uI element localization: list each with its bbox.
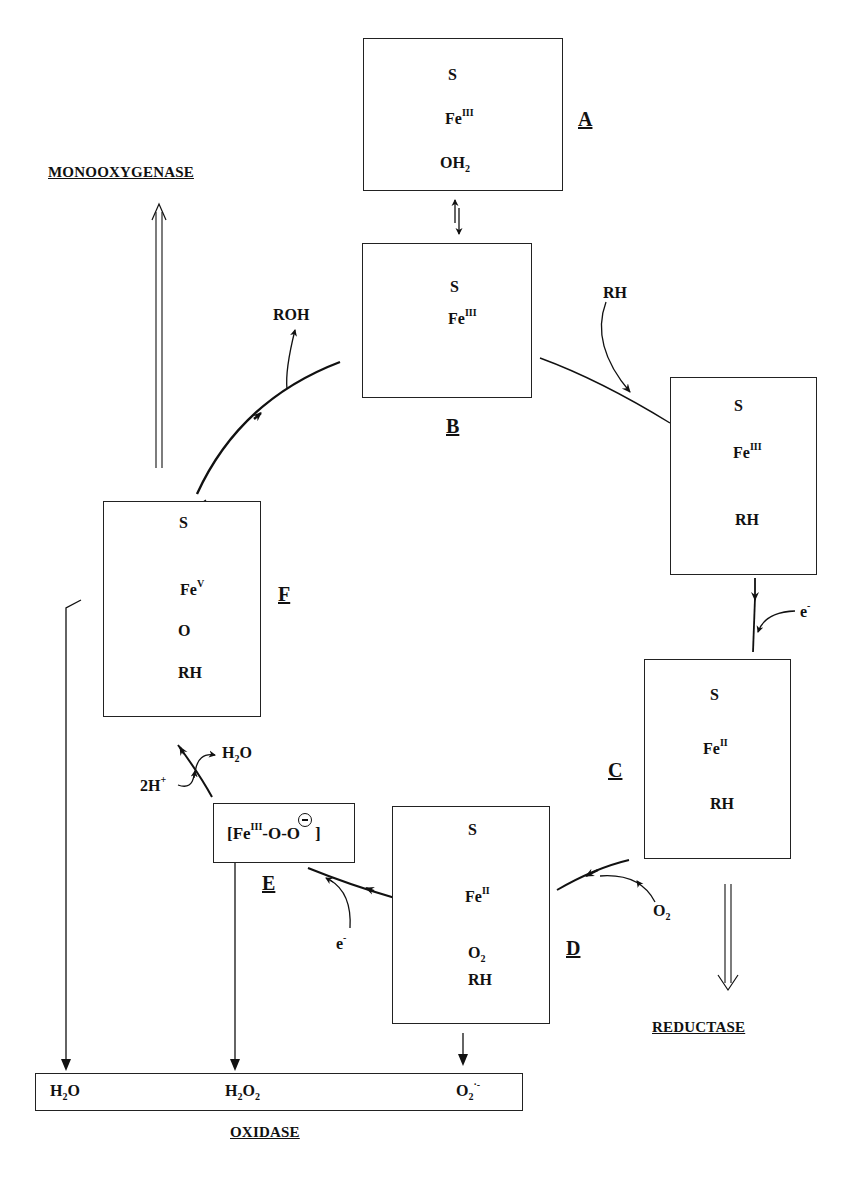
state-b-iron: FeIII (448, 311, 477, 327)
product-roh-label: ROH (273, 307, 309, 323)
state-b2-substrate: RH (735, 512, 759, 528)
formula-prefix: [Fe (227, 824, 251, 843)
product-sub: 2 (468, 1091, 473, 1102)
electron-label-2: e- (336, 936, 346, 952)
ligand-subscript: 2 (465, 163, 470, 174)
ligand-subscript: 2 (480, 953, 485, 964)
formula-suffix: -O-O (262, 824, 300, 843)
state-b-label: B (446, 416, 459, 436)
oxidation-state: III (750, 441, 762, 452)
ligand-symbol: OH (440, 154, 465, 171)
electron-charge: - (343, 932, 346, 943)
product-main: H (225, 1082, 237, 1099)
oxidase-product-peroxide: H2O2 (225, 1083, 260, 1099)
state-f-sulfur: S (179, 515, 188, 531)
monooxygenase-label: MONOOXYGENASE (48, 165, 194, 180)
substrate-rh-label: RH (603, 285, 627, 301)
state-d-box (392, 806, 550, 1024)
oxidation-state: III (462, 107, 474, 118)
state-f-oxo: O (178, 623, 190, 639)
state-b2-sulfur: S (734, 398, 743, 414)
state-c-sulfur: S (710, 687, 719, 703)
product-tail: O (242, 1082, 254, 1099)
oxidation-state: V (197, 578, 204, 589)
reductase-label: REDUCTASE (652, 1020, 745, 1035)
iron-symbol: Fe (703, 740, 720, 757)
state-d-iron: FeII (465, 889, 490, 905)
oxygen-symbol: O (653, 902, 665, 919)
iron-symbol: Fe (180, 581, 197, 598)
water-out-label: H2O (222, 745, 252, 761)
oxygen-o2-label: O2 (653, 903, 670, 919)
state-b2-iron: FeIII (733, 445, 762, 461)
state-d-substrate: RH (468, 972, 492, 988)
state-c-substrate: RH (710, 796, 734, 812)
oxidation-state: II (720, 737, 728, 748)
proton-charge: + (160, 774, 166, 785)
state-a-water: OH2 (440, 155, 470, 171)
state-c-iron: FeII (703, 741, 728, 757)
water-h: H (222, 744, 234, 761)
water-o: O (239, 744, 251, 761)
iron-symbol: Fe (733, 444, 750, 461)
state-a-iron: FeIII (445, 111, 474, 127)
state-d-sulfur: S (468, 822, 477, 838)
state-c-label: C (608, 760, 622, 780)
product-main: H (50, 1082, 62, 1099)
oxidation-state: III (251, 821, 263, 832)
oxidase-label: OXIDASE (230, 1125, 300, 1140)
negative-charge-icon (298, 813, 312, 827)
product-sub2: 2 (255, 1091, 260, 1102)
state-d-dioxygen: O2 (468, 945, 485, 961)
product-tail: O (67, 1082, 79, 1099)
state-f-iron: FeV (180, 582, 204, 598)
oxidase-product-water: H2O (50, 1083, 80, 1099)
state-e-formula: [FeIII-O-O] (227, 825, 321, 842)
ligand-symbol: O (468, 944, 480, 961)
electron-label-1: e- (800, 604, 810, 620)
oxidase-product-superoxide: O2·- (456, 1083, 480, 1099)
state-f-substrate: RH (178, 665, 202, 681)
product-main: O (456, 1082, 468, 1099)
state-a-sulfur: S (448, 67, 457, 83)
electron-charge: - (807, 600, 810, 611)
iron-symbol: Fe (445, 110, 462, 127)
state-b-box (362, 243, 532, 398)
proton-symbol: 2H (140, 777, 160, 794)
state-b-sulfur: S (450, 279, 459, 295)
state-f-box (103, 501, 261, 717)
state-b2-box (670, 377, 817, 575)
protons-label: 2H+ (140, 778, 166, 794)
state-d-label: D (566, 938, 580, 958)
oxygen-subscript: 2 (665, 911, 670, 922)
iron-symbol: Fe (448, 310, 465, 327)
state-e-label: E (262, 873, 275, 893)
state-f-label: F (278, 584, 290, 604)
product-sup: ·- (473, 1079, 480, 1090)
oxidation-state: II (482, 885, 490, 896)
oxidation-state: III (465, 307, 477, 318)
formula-close: ] (315, 824, 321, 843)
oxidase-products-box (35, 1073, 523, 1111)
iron-symbol: Fe (465, 888, 482, 905)
state-a-label: A (578, 109, 592, 129)
